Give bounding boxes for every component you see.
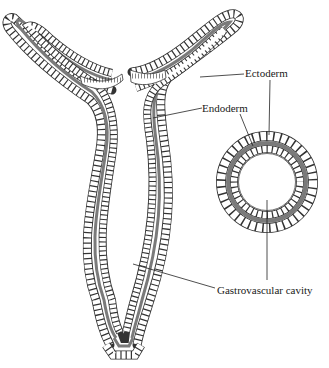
base-endoderm [120,332,127,340]
longitudinal-section [7,14,239,355]
endoderm-label: Endoderm [202,102,248,114]
ectoderm-label: Ectoderm [245,67,288,79]
hydra-body-diagram: Ectoderm Endoderm Gastrovascular cavity [0,0,329,368]
ectoderm-leader-line-cross [269,80,270,135]
cavity-label: Gastrovascular cavity [217,284,313,296]
ectoderm-leader-line-body [200,74,244,77]
